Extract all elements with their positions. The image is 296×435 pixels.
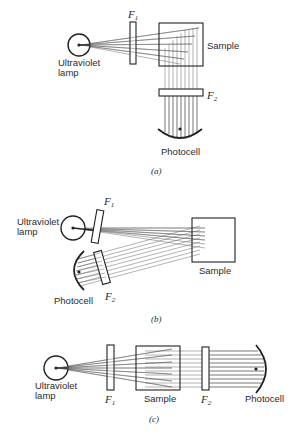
lamp-label-line2: lamp	[35, 390, 56, 401]
sample-cuvette	[192, 218, 235, 262]
panel-b: Ultraviolet lamp F1 Sample F2 Photocell …	[17, 195, 235, 324]
photocell-label: Photocell	[54, 295, 93, 306]
filter-f1	[130, 22, 136, 64]
filter2-label: F2	[104, 290, 116, 304]
photocell-dot	[178, 127, 181, 130]
sample-label: Sample	[207, 40, 239, 51]
panel-caption-b: (b)	[151, 314, 162, 324]
filter1-label: F1	[103, 195, 114, 209]
lamp-label-line2: lamp	[58, 67, 79, 78]
sample-label: Sample	[144, 393, 176, 404]
filter1-label: F1	[104, 393, 115, 407]
photocell-label: Photocell	[245, 393, 284, 404]
filter-f2	[159, 89, 203, 96]
sample-label: Sample	[199, 265, 231, 276]
filter-f1	[91, 210, 104, 244]
photocell-dot	[77, 270, 80, 273]
panel-caption-a: (a)	[151, 166, 162, 176]
filter-f1	[107, 345, 114, 390]
panel-a: Ultraviolet lamp F1 Sample F2 Photocell …	[58, 8, 239, 176]
filter-f2	[202, 347, 209, 390]
photocell-label: Photocell	[161, 146, 200, 157]
filter2-label: F2	[200, 393, 212, 407]
panel-caption-c: (c)	[149, 414, 159, 424]
filter1-label: F1	[127, 8, 138, 22]
photocell-dot	[254, 367, 257, 370]
fluorometer-diagram: Ultraviolet lamp F1 Sample F2 Photocell …	[0, 0, 296, 435]
lamp-label-line2: lamp	[17, 226, 38, 237]
filter2-label: F2	[206, 89, 218, 103]
panel-c: Ultraviolet lamp F1 Sample F2 Photocell …	[35, 345, 284, 424]
filter-f2	[94, 251, 111, 285]
